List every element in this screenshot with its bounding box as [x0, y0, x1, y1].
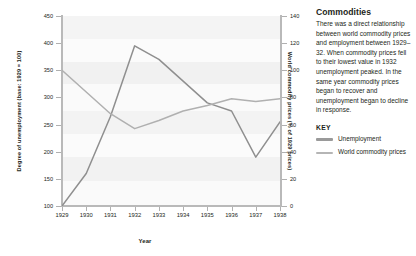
series-line [62, 46, 280, 206]
x-axis-tick-label: 1929 [49, 212, 75, 218]
legend-item-label: Unemployment [338, 135, 381, 143]
y-axis-left-tick-label: 250 [31, 122, 53, 128]
y-axis-right-tick-label: 0 [290, 203, 293, 209]
legend: UnemploymentWorld commodity prices [316, 135, 411, 157]
y-axis-left-tick [56, 70, 61, 71]
legend-swatch [316, 152, 333, 154]
y-axis-left-title: Degree of unemployment (base: 1929 = 100… [16, 36, 22, 186]
x-axis-tick [232, 207, 233, 211]
x-axis-tick [207, 207, 208, 211]
y-axis-left-tick-label: 400 [31, 40, 53, 46]
y-axis-left-tick [56, 206, 61, 207]
y-axis-left-tick-label: 300 [31, 94, 53, 100]
x-axis-tick-label: 1930 [73, 212, 99, 218]
y-axis-left-tick [56, 43, 61, 44]
y-axis-left-tick-label: 100 [31, 203, 53, 209]
y-axis-left-tick [56, 97, 61, 98]
x-axis-tick [62, 207, 63, 211]
series-lines [62, 16, 280, 206]
legend-swatch [316, 138, 333, 140]
x-axis-tick [110, 207, 111, 211]
y-axis-left-tick [56, 179, 61, 180]
y-axis-left-tick [56, 152, 61, 153]
y-axis-left-tick-label: 450 [31, 13, 53, 19]
x-axis-tick-label: 1936 [219, 212, 245, 218]
chart-area: 100150200250300350400450 020406080100120… [0, 0, 312, 256]
series-line [62, 70, 280, 128]
x-axis-tick-label: 1931 [97, 212, 123, 218]
legend-title: KEY [316, 124, 411, 131]
y-axis-right-tick [282, 206, 287, 207]
y-axis-right-tick [282, 16, 287, 17]
x-axis-tick [135, 207, 136, 211]
y-axis-left-tick [56, 125, 61, 126]
x-axis-tick [86, 207, 87, 211]
x-axis-tick-label: 1934 [170, 212, 196, 218]
x-axis-tick-label: 1932 [122, 212, 148, 218]
x-axis-title: Year [0, 238, 290, 244]
x-axis-tick-label: 1935 [194, 212, 220, 218]
legend-item-label: World commodity prices [338, 148, 406, 156]
y-axis-right-tick-label: 140 [290, 13, 299, 19]
legend-item[interactable]: Unemployment [316, 135, 411, 143]
x-axis-tick [256, 207, 257, 211]
x-axis-tick-label: 1938 [267, 212, 293, 218]
y-axis-left-tick-label: 200 [31, 149, 53, 155]
commentary-panel: Commodities There was a direct relations… [312, 0, 416, 256]
legend-item[interactable]: World commodity prices [316, 148, 411, 156]
y-axis-left-tick-label: 150 [31, 176, 53, 182]
y-axis-left-tick-label: 350 [31, 67, 53, 73]
y-axis-left-tick [56, 16, 61, 17]
panel-body-text: There was a direct relationship between … [316, 19, 411, 115]
x-axis-tick-label: 1937 [243, 212, 269, 218]
x-axis-tick [183, 207, 184, 211]
x-axis-tick-label: 1933 [146, 212, 172, 218]
panel-title: Commodities [316, 7, 411, 17]
chart-page: 100150200250300350400450 020406080100120… [0, 0, 416, 256]
y-axis-right-title: World commodity prices (% of 1929 prices… [287, 36, 293, 186]
x-axis-tick [159, 207, 160, 211]
x-axis-tick [280, 207, 281, 211]
